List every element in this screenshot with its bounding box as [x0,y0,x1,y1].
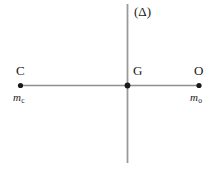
mass-o-symbol: m [190,91,198,103]
mass-o-subscript: o [198,96,202,105]
mass-o-label: mo [190,92,202,103]
point-o-label: O [194,64,203,77]
mass-c-symbol: m [13,91,21,103]
mechanics-figure: (Δ) C G O mc mo [0,0,214,169]
mass-c-label: mc [13,92,24,103]
point-c-marker [18,83,23,88]
point-g-marker [125,83,131,89]
point-g-label: G [133,64,142,77]
figure-canvas [0,0,214,169]
point-o-marker [196,83,201,88]
point-c-label: C [16,64,25,77]
mass-c-subscript: c [21,96,24,105]
vertical-axis-label: (Δ) [134,5,151,18]
